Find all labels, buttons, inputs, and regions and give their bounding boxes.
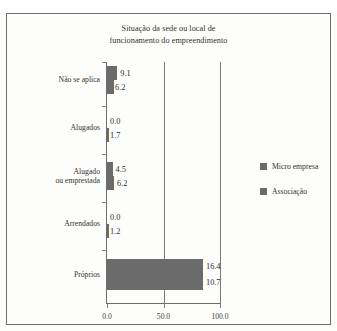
bar-associacao[interactable]: [107, 224, 109, 238]
bar-micro-empresa[interactable]: [107, 162, 113, 176]
category-label-arrendados: Arrendados: [64, 219, 100, 228]
bar-value-associacao: 6.2: [115, 83, 125, 92]
category-label-line: Próprios: [74, 270, 100, 279]
bar-value-associacao: 6.2: [117, 179, 127, 188]
bar-group-arrendados: Arrendados 0.0 1.2: [107, 210, 220, 238]
x-axis-tick-50: [164, 304, 165, 308]
legend-swatch-icon: [260, 163, 267, 170]
category-label-line: ou emprestada: [55, 176, 100, 185]
bar-group-alugado-ou-emprestada: Alugado ou emprestada 4.5 6.2: [107, 162, 220, 190]
y-axis-tick: [102, 202, 107, 203]
chart-title-line-2: funcionamento do empreendimento: [7, 35, 330, 47]
bar-associacao[interactable]: [107, 176, 114, 190]
bar-row-associacao[interactable]: 10.7: [107, 273, 220, 290]
legend-label-associacao: Associação: [272, 187, 307, 196]
bar-value-micro-empresa: 4.5: [116, 165, 126, 174]
legend-label-micro-empresa: Micro empresa: [272, 162, 318, 171]
bar-value-micro-empresa: 0.0: [110, 117, 120, 126]
bar-value-micro-empresa: 0.0: [110, 213, 120, 222]
bar-micro-empresa[interactable]: [107, 66, 117, 80]
page-top-margin: [0, 0, 337, 12]
bar-row-associacao[interactable]: 6.2: [107, 176, 220, 190]
x-axis-label-50: 50.0: [157, 312, 170, 321]
chart-legend: Micro empresa Associação: [260, 162, 335, 212]
x-axis-label-100: 100.0: [211, 312, 228, 321]
bar-row-associacao[interactable]: 1.7: [107, 128, 220, 142]
category-label-nao-se-aplica: Não se aplica: [59, 75, 100, 84]
bar-row-associacao[interactable]: 6.2: [107, 80, 220, 94]
bar-row-associacao[interactable]: 1.2: [107, 224, 220, 238]
bar-row-micro-empresa[interactable]: 0.0: [107, 114, 220, 128]
legend-swatch-icon: [260, 188, 267, 195]
chart-title: Situação da sede ou local de funcionamen…: [7, 23, 330, 46]
category-label-alugado-ou-emprestada: Alugado ou emprestada: [55, 167, 100, 186]
bar-value-associacao: 10.7: [206, 277, 221, 286]
bar-group-nao-se-aplica: Não se aplica 9.1 6.2: [107, 66, 220, 94]
bar-value-associacao: 1.7: [110, 131, 120, 140]
bar-group-proprios: Próprios 16.4 10.7: [107, 259, 220, 290]
category-label-line: Alugados: [71, 123, 100, 132]
bar-associacao[interactable]: [107, 80, 114, 94]
bar-associacao[interactable]: [107, 128, 109, 142]
category-label-line: Alugado: [74, 167, 100, 176]
x-axis-tick-100: [220, 304, 221, 308]
plot-area: Não se aplica 9.1 6.2 Alugados 0.: [107, 62, 220, 304]
bar-group-alugados: Alugados 0.0 1.7: [107, 114, 220, 142]
legend-item-associacao[interactable]: Associação: [260, 187, 335, 196]
y-axis-tick: [102, 250, 107, 251]
bar-value-associacao: 1.2: [110, 227, 120, 236]
legend-item-micro-empresa[interactable]: Micro empresa: [260, 162, 335, 171]
chart-title-line-1: Situação da sede ou local de: [7, 23, 330, 35]
y-axis-tick: [102, 106, 107, 107]
bar-value-micro-empresa: 16.4: [206, 262, 221, 271]
x-axis-tick-0: [107, 304, 108, 308]
x-axis-label-0: 0.0: [102, 312, 112, 321]
scanned-page: Situação da sede ou local de funcionamen…: [0, 0, 337, 331]
category-label-line: Arrendados: [64, 219, 100, 228]
bar-row-micro-empresa[interactable]: 4.5: [107, 162, 220, 176]
bar-row-micro-empresa[interactable]: 16.4: [107, 259, 220, 273]
category-label-line: Não se aplica: [59, 75, 100, 84]
y-axis-tick: [102, 154, 107, 155]
y-axis-tick: [102, 62, 107, 63]
category-label-proprios: Próprios: [74, 270, 100, 279]
category-label-alugados: Alugados: [71, 123, 100, 132]
bar-row-micro-empresa[interactable]: 0.0: [107, 210, 220, 224]
bar-value-micro-empresa: 9.1: [120, 69, 130, 78]
bar-row-micro-empresa[interactable]: 9.1: [107, 66, 220, 80]
chart-frame: Situação da sede ou local de funcionamen…: [6, 13, 331, 325]
